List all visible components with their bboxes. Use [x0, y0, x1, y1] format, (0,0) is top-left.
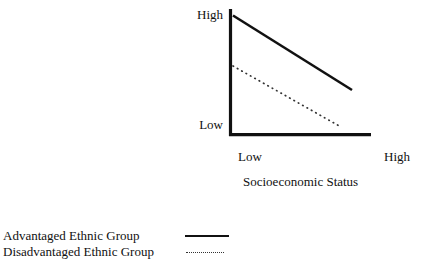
series-line-advantaged	[233, 16, 352, 91]
legend-swatch-solid-line	[185, 228, 233, 244]
x-axis-tick-label-low: Low	[238, 149, 262, 164]
chart-legend: Advantaged Ethnic Group Disadvantaged Et…	[3, 228, 303, 260]
legend-label-advantaged: Advantaged Ethnic Group	[3, 228, 139, 244]
series-line-disadvantaged	[233, 66, 341, 127]
legend-item-disadvantaged: Disadvantaged Ethnic Group	[3, 244, 303, 260]
figure-container: High Low Low High Socioeconomic Status A…	[0, 0, 433, 279]
y-axis-tick-label-low: Low	[150, 117, 223, 132]
x-axis-tick-label-high: High	[384, 149, 410, 164]
x-axis-title: Socioeconomic Status	[243, 174, 358, 189]
legend-swatch-dotted-line	[185, 244, 233, 260]
legend-label-disadvantaged: Disadvantaged Ethnic Group	[3, 244, 154, 260]
y-axis-tick-label-high: High	[150, 7, 223, 22]
legend-item-advantaged: Advantaged Ethnic Group	[3, 228, 303, 244]
